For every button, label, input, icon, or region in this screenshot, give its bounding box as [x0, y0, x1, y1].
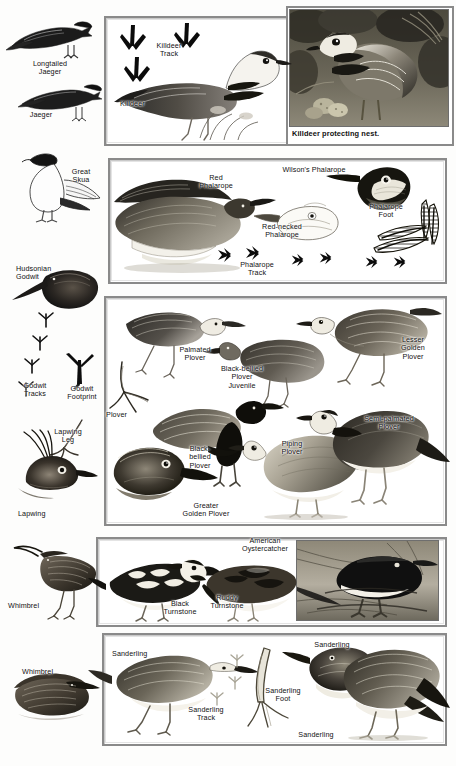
phalarope-track-6	[392, 254, 408, 274]
label-lapwing: Lapwing	[18, 510, 66, 518]
label-sanderling-left: Sanderling	[112, 650, 164, 658]
label-sanderling-track: Sanderling Track	[180, 706, 232, 723]
label-killdeer-track: Killdeer Track	[146, 42, 192, 59]
label-hudsonian-godwit: Hudsonian Godwit	[16, 265, 76, 282]
label-sanderling-right: Sanderling	[290, 731, 342, 739]
killdeer-photo	[289, 9, 449, 127]
sanderling-track-2	[226, 674, 244, 696]
label-sanderling-foot: Sanderling Foot	[258, 687, 308, 704]
label-black-bellied-plover-juvenile: Black-bellied Plover Juvenile	[214, 365, 270, 390]
ruddy-turnstone-illustration	[194, 548, 304, 622]
label-red-necked-phalarope: Red-necked Phalarope	[254, 223, 310, 240]
great-skua-illustration	[20, 150, 104, 222]
label-american-oystercatcher: American Oystercatcher	[234, 537, 296, 554]
oystercatcher-photo	[296, 540, 439, 621]
plate-canvas: Longtailed Jaeger Jaeger Great Skua Huds…	[0, 0, 456, 766]
sanderling-right-illustration	[340, 644, 446, 740]
godwit-track-2	[30, 333, 50, 357]
label-lapwing-leg: Lapwing Leg	[46, 428, 90, 445]
label-godwit-tracks: Godwit Tracks	[14, 382, 56, 399]
label-whimbrel-standing: Whimbrel	[8, 602, 60, 610]
label-longtailed-jaeger: Longtailed Jaeger	[18, 60, 82, 77]
phalarope-track-3	[290, 252, 306, 272]
label-plover-foot: Plover	[106, 411, 144, 419]
killdeer-track-1	[120, 24, 146, 58]
jaeger-illustration	[18, 78, 108, 128]
caption-killdeer-photo: Killdeer protecting nest.	[292, 129, 379, 138]
label-jaeger: Jaeger	[16, 111, 66, 119]
label-great-skua: Great Skua	[60, 168, 102, 185]
label-whimbrel-sitting: Whimbrel	[22, 668, 74, 676]
label-phalarope-track: Phalarope Track	[231, 261, 283, 278]
label-ruddy-turnstone: Ruddy Turnstone	[204, 594, 250, 611]
label-killdeer: Killdeer	[120, 100, 164, 108]
label-semi-palmated-plover: Semi-palmated Plover	[354, 415, 424, 432]
label-piping-plover: Piping Plover	[272, 440, 312, 457]
label-black-bellied-plover: Black- bellied Plover	[180, 445, 220, 470]
label-greater-golden-plover: Greater Golden Plover	[172, 502, 240, 519]
phalarope-track-4	[318, 250, 334, 270]
label-phalarope-foot: Phalarope Foot	[360, 203, 412, 220]
phalarope-track-5	[364, 254, 380, 274]
label-red-phalarope: Red Phalarope	[192, 174, 240, 191]
godwit-track-3	[22, 356, 42, 380]
label-wilsons-phalarope: Wilson's Phalarope	[276, 166, 352, 174]
whimbrel-sitting-illustration	[0, 668, 102, 732]
sanderling-track-1	[228, 652, 246, 674]
killdeer-track-3	[124, 56, 150, 90]
label-sanderling-head: Sanderling	[306, 641, 358, 649]
label-palmated-plover: Palmated Plover	[170, 346, 220, 363]
label-godwit-footprint: Godwit Footprint	[58, 385, 106, 402]
godwit-track-1	[36, 310, 56, 334]
label-lesser-golden-plover: Lesser Golden Plover	[392, 336, 434, 361]
longtailed-jaeger-illustration	[4, 12, 100, 64]
label-black-turnstone: Black Turnstone	[158, 600, 202, 617]
